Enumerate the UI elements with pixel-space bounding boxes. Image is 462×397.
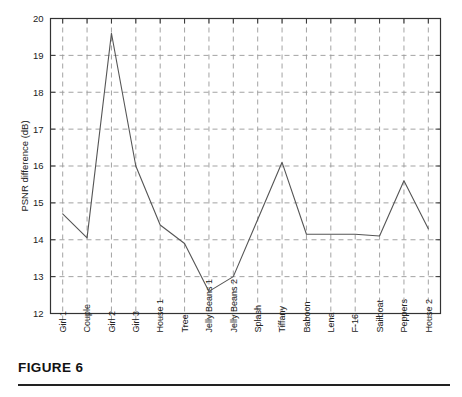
data-series-line [63, 33, 429, 291]
caption-divider [18, 384, 450, 386]
figure-caption-label: FIGURE 6 [18, 360, 83, 375]
x-tick-marks-top [63, 19, 429, 24]
x-category-label: Couple [82, 304, 92, 333]
psnr-difference-series [63, 33, 429, 291]
x-category-label: Lena [326, 312, 336, 332]
y-tick-label: 13 [33, 271, 44, 282]
chart-plot-area: 121314151617181920 Girl 1CoupleGirl 2Gir… [0, 0, 462, 350]
y-axis-title: PSNR difference (dB) [19, 120, 30, 211]
x-category-label: F-16 [350, 314, 360, 333]
figure-container: 121314151617181920 Girl 1CoupleGirl 2Gir… [0, 0, 462, 397]
y-tick-label: 16 [33, 160, 44, 171]
y-tick-label: 18 [33, 87, 44, 98]
x-category-label: Girl 2 [107, 311, 117, 333]
x-category-labels: Girl 1CoupleGirl 2Girl 3House 1TreeJelly… [58, 279, 434, 333]
x-category-label: Girl 1 [58, 311, 68, 333]
psnr-difference-line-chart: 121314151617181920 Girl 1CoupleGirl 2Gir… [0, 0, 462, 350]
x-category-label: Jelly Beans 2 [229, 279, 239, 333]
x-category-label: House 1 [155, 299, 165, 333]
y-tick-labels: 121314151617181920 [33, 13, 44, 319]
x-category-label: Jelly Beans 1 [204, 279, 214, 333]
y-tick-label: 15 [33, 197, 44, 208]
x-category-label: House 2 [424, 299, 434, 333]
x-category-label: Sailboat [375, 299, 385, 332]
y-tick-label: 14 [33, 234, 44, 245]
y-tick-label: 20 [33, 13, 44, 24]
x-category-label: Girl 3 [131, 311, 141, 333]
x-category-label: Baboon [302, 301, 312, 332]
figure-caption-block: FIGURE 6 [0, 360, 462, 397]
x-category-label: Tiffany [277, 305, 287, 332]
y-gridlines [51, 55, 441, 276]
y-axis-title-text: PSNR difference (dB) [19, 120, 30, 211]
y-tick-label: 19 [33, 50, 44, 61]
x-category-label: Peppers [399, 298, 409, 332]
x-category-label: Splash [253, 305, 263, 333]
y-tick-label: 12 [33, 308, 44, 319]
x-category-label: Tree [180, 314, 190, 332]
y-tick-label: 17 [33, 124, 44, 135]
